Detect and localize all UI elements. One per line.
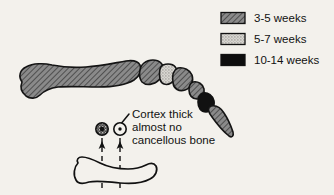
bone-healing-diagram: 3-5 weeks 5-7 weeks 10-14 weeks Cortex t… — [0, 0, 334, 195]
legend-item-2: 10-14 weeks — [221, 54, 319, 66]
legend-label-5-7-weeks: 5-7 weeks — [254, 33, 307, 45]
legend-swatch-5-7-weeks — [221, 34, 245, 45]
caption-line-2: cancellous bone — [132, 134, 215, 146]
legend-item-0: 3-5 weeks — [221, 12, 307, 24]
legend-item-1: 5-7 weeks — [221, 33, 307, 45]
caption-line-0: Cortex thick — [132, 108, 193, 120]
background — [0, 0, 334, 195]
legend-label-3-5-weeks: 3-5 weeks — [254, 12, 307, 24]
legend-swatch-3-5-weeks — [221, 13, 245, 24]
legend-label-10-14-weeks: 10-14 weeks — [254, 54, 319, 66]
caption-line-1: almost no — [132, 121, 182, 133]
cortex-cross-section — [114, 123, 126, 135]
legend-swatch-10-14-weeks — [221, 55, 245, 66]
legend: 3-5 weeks 5-7 weeks 10-14 weeks — [221, 12, 319, 66]
cancellous-cross-section — [96, 123, 108, 135]
figure-canvas: 3-5 weeks 5-7 weeks 10-14 weeks Cortex t… — [0, 0, 334, 195]
